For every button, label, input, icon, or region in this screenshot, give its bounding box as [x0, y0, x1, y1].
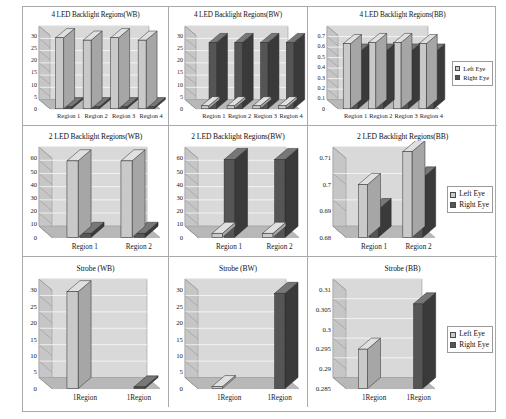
plot-area: 051015202530Region 1Region 2Region 3Regi…: [23, 20, 168, 125]
chart-cell-chart-4led-bb: 4 LED Backlight Regions(BB)00.10.20.30.4…: [308, 7, 497, 126]
legend-label: Right Eye: [459, 341, 489, 350]
y-axis-tick: 10: [177, 81, 183, 87]
y-axis-tick: 0: [180, 106, 183, 112]
bar-left-eye: [67, 281, 91, 389]
chart-cell-chart-2led-wb: 2 LED Backlight Regions(WB)0102030405060…: [23, 126, 169, 257]
chart-strobe-bw: Strobe (BW)0510152025301Region1Region: [169, 257, 307, 407]
chart-strobe-bb: Strobe (BB)0.2850.290.2950.30.3050.311Re…: [308, 257, 497, 407]
bar-left-eye: [111, 28, 130, 108]
y-axis-tick: 20: [176, 319, 183, 326]
x-axis-tick: 1Region: [267, 394, 292, 402]
y-axis-tick: 0.29: [319, 365, 331, 372]
chart-legend: Left EyeRight Eye: [452, 61, 493, 86]
y-axis-tick: 30: [30, 287, 37, 294]
x-axis-tick: Region 2: [126, 243, 153, 251]
x-axis-tick: Region 4: [279, 112, 303, 119]
bar-left-eye: [343, 34, 361, 108]
y-axis-tick: 0.7: [318, 32, 325, 38]
y-axis-tick: 0.31: [319, 287, 331, 294]
y-axis-tick: 30: [30, 194, 37, 201]
chart-4led-wb: 4 LED Backlight Regions(WB)051015202530R…: [23, 7, 168, 125]
chart-title: Strobe (WB): [77, 265, 115, 273]
bar-left-eye: [368, 33, 386, 108]
x-axis-tick: Region 3: [254, 112, 277, 119]
y-axis-tick: 10: [31, 81, 37, 87]
x-axis-tick: Region 1: [202, 112, 225, 119]
legend-item-right-eye: Right Eye: [450, 201, 489, 210]
y-axis-tick: 10: [30, 221, 37, 228]
y-axis-tick: 0.7: [323, 181, 332, 188]
y-axis-tick: 10: [30, 352, 37, 359]
plot-area: 0102030405060Region 1Region 2: [23, 141, 168, 256]
y-axis-tick: 15: [177, 69, 183, 75]
bar-left-eye: [67, 150, 91, 238]
plot-area: 0.2850.290.2950.30.3050.311Region1Region…: [308, 273, 497, 407]
x-axis-tick: Region 2: [369, 112, 392, 119]
x-axis-tick: 1Region: [73, 394, 98, 402]
legend-label: Left Eye: [459, 330, 485, 339]
chart-cell-chart-4led-bw: 4 LED Backlight Regions(BW)051015202530R…: [169, 7, 308, 126]
legend-swatch-icon: [450, 332, 456, 338]
y-axis-tick: 20: [176, 208, 183, 215]
plot-area: 00.10.20.30.40.50.60.7Region 1Region 2Re…: [308, 20, 497, 125]
y-axis-tick: 0: [34, 385, 38, 392]
chart-strobe-wb: Strobe (WB)0510152025301Region1Region: [23, 257, 168, 407]
y-axis-tick: 10: [176, 221, 183, 228]
y-axis-tick: 30: [176, 194, 183, 201]
x-axis-tick: Region 3: [394, 112, 417, 119]
plot-area: 0510152025301Region1Region: [23, 273, 168, 407]
bar-left-eye: [121, 150, 145, 238]
y-axis-tick: 25: [177, 45, 183, 51]
y-axis-tick: 0: [34, 234, 38, 241]
legend-item-right-eye: Right Eye: [450, 341, 489, 350]
y-axis-tick: 0.305: [316, 306, 332, 313]
y-axis-tick: 5: [180, 94, 183, 100]
bar-left-eye: [403, 141, 425, 237]
y-axis-tick: 0.3: [318, 74, 325, 80]
y-axis-tick: 25: [30, 303, 37, 310]
legend-item-left-eye: Left Eye: [455, 65, 489, 72]
y-axis-tick: 5: [180, 369, 184, 376]
bar-left-eye: [419, 34, 437, 108]
legend-label: Left Eye: [463, 65, 485, 72]
chart-4led-bb: 4 LED Backlight Regions(BB)00.10.20.30.4…: [308, 7, 497, 125]
x-axis-tick: Region 1: [361, 243, 388, 251]
chart-title: Strobe (BB): [385, 265, 421, 273]
y-axis-tick: 60: [176, 155, 183, 162]
x-axis-tick: Region 4: [140, 112, 164, 119]
chart-title: 4 LED Backlight Regions(BW): [194, 12, 282, 20]
plot-area: 0.680.690.70.71Region 1Region 2Left EyeR…: [308, 141, 497, 256]
y-axis-tick: 40: [176, 181, 183, 188]
legend-item-left-eye: Left Eye: [450, 190, 489, 199]
x-axis-tick: Region 4: [420, 112, 444, 119]
x-axis-tick: Region 3: [112, 112, 135, 119]
y-axis-tick: 15: [31, 69, 37, 75]
plot-area: 051015202530Region 1Region 2Region 3Regi…: [169, 20, 307, 125]
chart-cell-chart-strobe-wb: Strobe (WB)0510152025301Region1Region: [23, 257, 169, 407]
y-axis-tick: 0: [322, 106, 325, 112]
chart-cell-chart-strobe-bw: Strobe (BW)0510152025301Region1Region: [169, 257, 308, 407]
x-axis-tick: Region 1: [216, 243, 243, 251]
chart-title: 2 LED Backlight Regions(WB): [49, 133, 142, 141]
y-axis-tick: 50: [30, 168, 37, 175]
y-axis-tick: 0: [180, 385, 184, 392]
chart-title: 2 LED Backlight Regions(BB): [357, 133, 448, 141]
y-axis-tick: 0.71: [319, 155, 331, 162]
chart-title: 2 LED Backlight Regions(BW): [191, 133, 284, 141]
chart-4led-bw: 4 LED Backlight Regions(BW)051015202530R…: [169, 7, 307, 125]
y-axis-tick: 0.295: [316, 346, 332, 353]
y-axis-tick: 20: [30, 208, 37, 215]
chart-title: Strobe (BW): [219, 265, 257, 273]
y-axis-tick: 60: [30, 155, 37, 162]
chart-grid: 4 LED Backlight Regions(WB)051015202530R…: [22, 6, 496, 412]
plot-area: 0102030405060Region 1Region 2: [169, 141, 307, 256]
chart-cell-chart-strobe-bb: Strobe (BB)0.2850.290.2950.30.3050.311Re…: [308, 257, 497, 407]
chart-legend: Left EyeRight Eye: [447, 326, 493, 353]
x-axis-tick: Region 1: [72, 243, 99, 251]
y-axis-tick: 0.3: [323, 326, 332, 333]
y-axis-tick: 15: [30, 336, 37, 343]
y-axis-tick: 0.5: [318, 53, 325, 59]
y-axis-tick: 20: [177, 57, 183, 63]
legend-swatch-icon: [450, 202, 456, 208]
y-axis-tick: 0.1: [318, 95, 325, 101]
